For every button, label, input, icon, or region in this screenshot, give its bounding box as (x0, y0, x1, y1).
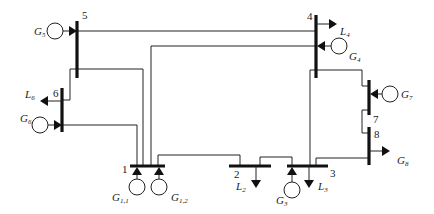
bus-label-3: 3 (330, 167, 336, 179)
svg-text:L3: L3 (317, 180, 328, 194)
generator-g1-2: G1,2 (151, 167, 188, 205)
line-2-3 (260, 157, 292, 165)
arrow-left-icon (370, 89, 378, 99)
svg-text:L2: L2 (235, 180, 246, 194)
generator-g5: G5 (34, 23, 77, 39)
svg-text:G4: G4 (349, 50, 361, 64)
svg-text:G8: G8 (397, 154, 409, 168)
generator-circle-icon (47, 23, 63, 39)
branch-lines (62, 31, 369, 165)
generator-circle-icon (331, 38, 347, 54)
generator-circle-icon (151, 179, 167, 195)
bus-label-7: 7 (373, 113, 379, 125)
line-1-5 (77, 69, 143, 165)
generator-circle-icon (284, 182, 300, 198)
load-l3: L3 (304, 166, 328, 194)
power-system-diagram: 5 6 4 7 8 1 2 3 G5 G6 G4 (0, 0, 434, 214)
generator-circle-icon (32, 117, 48, 133)
output-g8: G8 (369, 146, 409, 168)
arrow-down-icon (304, 180, 314, 188)
loads: L4 L6 G8 L2 L3 (24, 19, 409, 194)
svg-text:L4: L4 (339, 25, 350, 39)
line-1-6 (62, 125, 137, 165)
load-l4: L4 (316, 19, 350, 39)
arrow-up-icon (287, 167, 297, 175)
arrow-right-icon (329, 19, 337, 29)
line-4-3 (310, 70, 316, 165)
svg-text:G1,2: G1,2 (171, 191, 188, 205)
buses (62, 15, 369, 166)
generator-g3: G3 (276, 167, 300, 208)
arrow-up-icon (154, 167, 164, 175)
svg-text:G7: G7 (401, 88, 413, 102)
bus-label-4: 4 (307, 10, 313, 22)
arrow-left-icon (40, 96, 48, 106)
line-8-3 (316, 158, 369, 165)
arrow-right-icon (382, 146, 390, 156)
generator-g1-1: G1,1 (112, 167, 145, 205)
generator-g7: G7 (370, 86, 413, 102)
bus-label-2: 2 (234, 168, 240, 180)
svg-text:G5: G5 (34, 25, 46, 39)
bus-labels: 5 6 4 7 8 1 2 3 (53, 9, 380, 180)
generator-g6: G6 (20, 112, 62, 133)
svg-text:G1,1: G1,1 (112, 191, 129, 205)
line-1-2 (158, 155, 240, 165)
generator-g4: G4 (317, 38, 361, 64)
arrow-down-icon (251, 180, 261, 188)
arrow-left-icon (317, 41, 325, 51)
generator-circle-icon (382, 86, 398, 102)
arrow-up-icon (132, 167, 142, 175)
generator-circle-icon (129, 179, 145, 195)
bus-label-5: 5 (82, 9, 88, 21)
line-1-4 (151, 46, 316, 165)
generators: G5 G6 G4 G7 G1,1 (20, 23, 413, 208)
bus-label-1: 1 (122, 163, 128, 175)
bus-label-8: 8 (374, 128, 380, 140)
svg-text:G6: G6 (20, 112, 32, 126)
bus-label-6: 6 (53, 87, 59, 99)
line-4-7 (316, 70, 369, 86)
svg-text:L6: L6 (24, 88, 35, 102)
line-5-6 (62, 69, 77, 100)
